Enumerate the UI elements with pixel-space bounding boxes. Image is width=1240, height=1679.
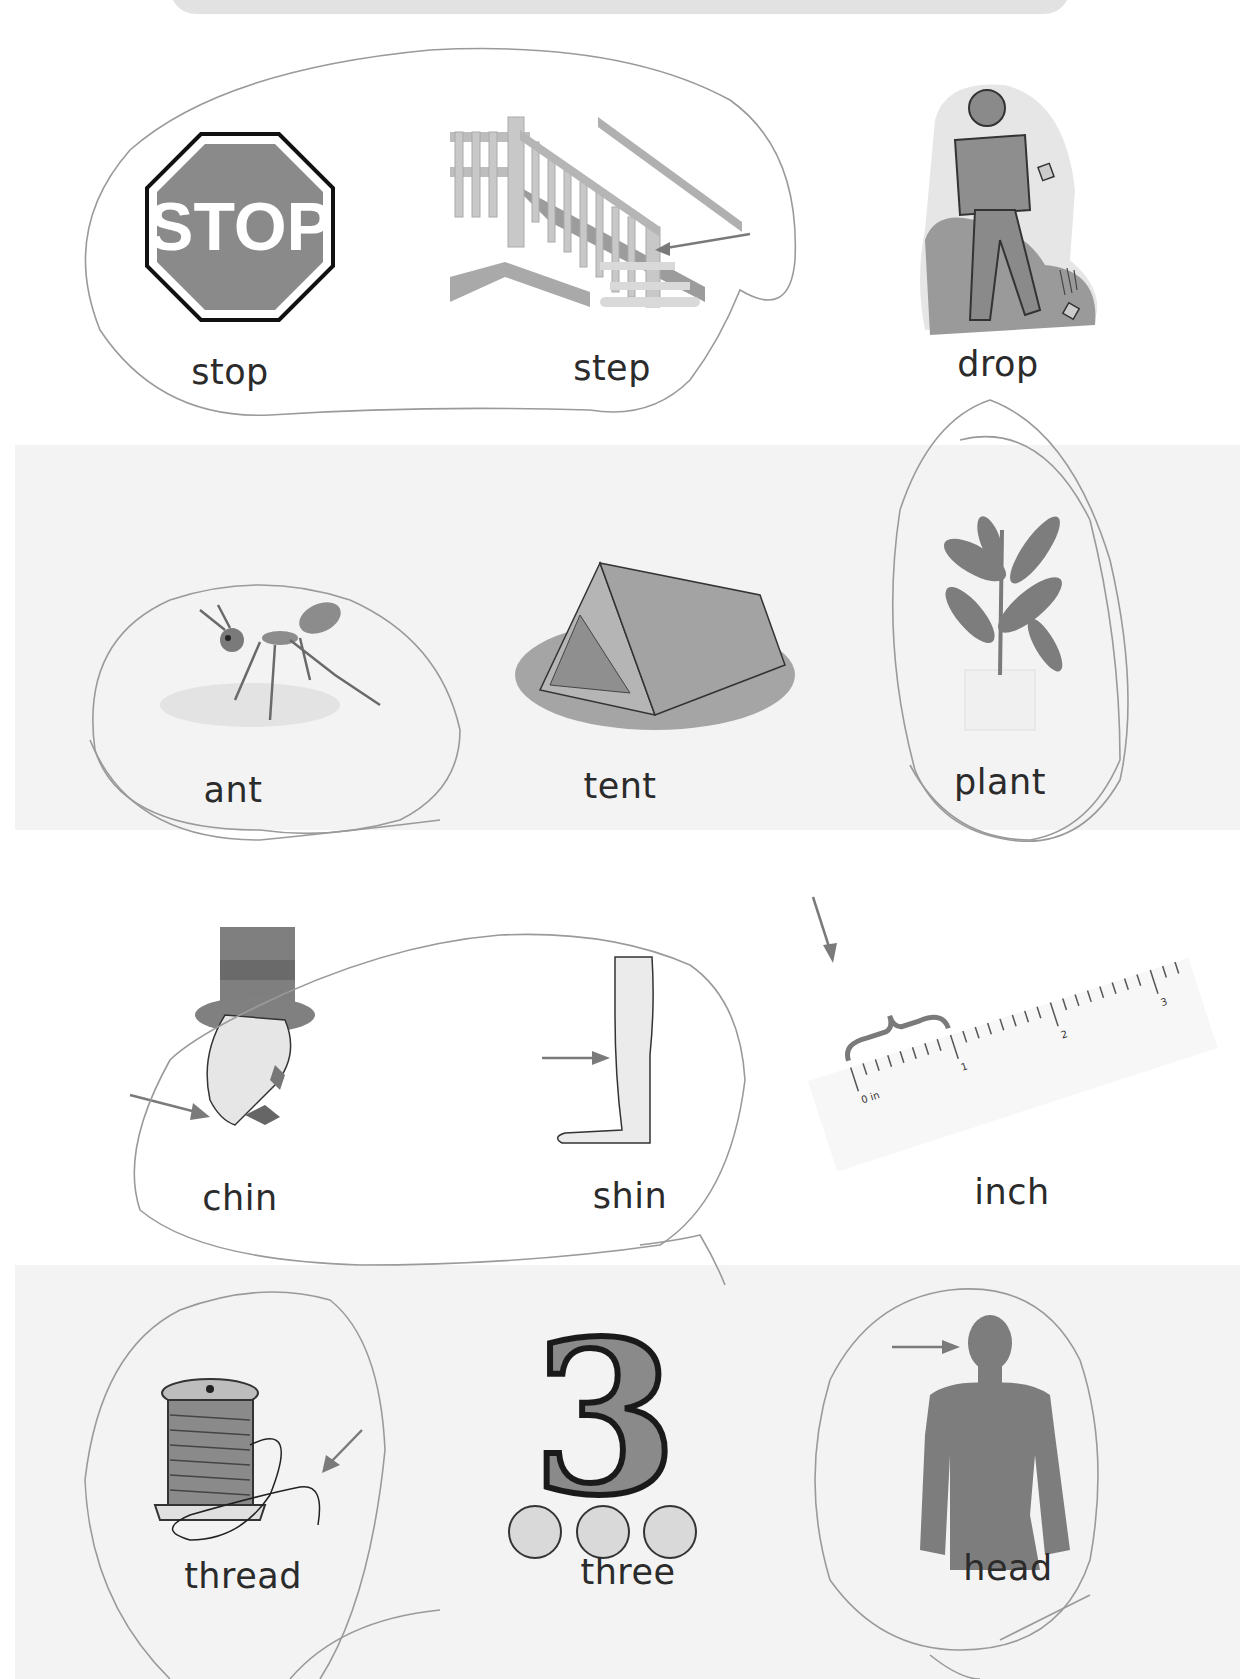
- svg-text:3: 3: [532, 1295, 678, 1542]
- chin-picture: [125, 925, 345, 1145]
- body-silhouette-icon: [890, 1315, 1090, 1585]
- word-drop: drop: [957, 344, 1038, 384]
- spool-of-thread-icon: [150, 1375, 380, 1555]
- word-thread: thread: [184, 1556, 302, 1596]
- shin-picture: [540, 955, 660, 1150]
- stop-sign-icon: STOP: [145, 132, 335, 322]
- word-chin: chin: [202, 1178, 277, 1218]
- drop-picture: [915, 80, 1115, 350]
- ant-icon: [140, 590, 390, 740]
- person-dropping-groceries-icon: [915, 80, 1115, 350]
- man-top-hat-icon: [125, 925, 345, 1145]
- potted-plant-icon: [930, 510, 1080, 740]
- word-head: head: [963, 1548, 1052, 1588]
- word-step: step: [573, 348, 651, 388]
- word-inch: inch: [974, 1172, 1049, 1212]
- word-stop: stop: [191, 352, 269, 392]
- tent-icon: [515, 555, 795, 735]
- svg-text:STOP: STOP: [148, 188, 332, 264]
- staircase-picture: [450, 112, 770, 312]
- three-picture: 3: [505, 1310, 705, 1560]
- word-plant: plant: [954, 762, 1046, 802]
- word-ant: ant: [204, 770, 263, 810]
- tent-picture: [515, 555, 795, 735]
- leg-icon: [540, 955, 660, 1150]
- staircase-icon: [450, 112, 770, 312]
- inch-picture: 0 in 1 2 3: [805, 895, 1185, 1125]
- header-bar: [170, 0, 1070, 14]
- head-picture: [890, 1315, 1090, 1585]
- word-tent: tent: [583, 766, 656, 806]
- thread-picture: [150, 1375, 380, 1555]
- word-three: three: [580, 1552, 675, 1592]
- plant-picture: [930, 510, 1080, 740]
- word-shin: shin: [593, 1176, 667, 1216]
- number-three-icon: 3: [505, 1310, 705, 1560]
- stop-sign-picture: STOP: [145, 132, 335, 322]
- ant-picture: [140, 590, 390, 740]
- ruler-icon: 0 in 1 2 3: [805, 895, 1185, 1125]
